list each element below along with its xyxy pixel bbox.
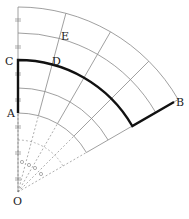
label-O: O xyxy=(13,195,22,208)
label-D: D xyxy=(52,55,61,68)
label-C: C xyxy=(5,55,13,68)
label-A: A xyxy=(6,107,16,120)
grid-radials xyxy=(38,13,178,152)
angle-marks xyxy=(20,160,42,175)
sector-grid-diagram: C D E A B O xyxy=(0,0,189,219)
label-B: B xyxy=(176,96,184,109)
label-E: E xyxy=(61,30,69,43)
